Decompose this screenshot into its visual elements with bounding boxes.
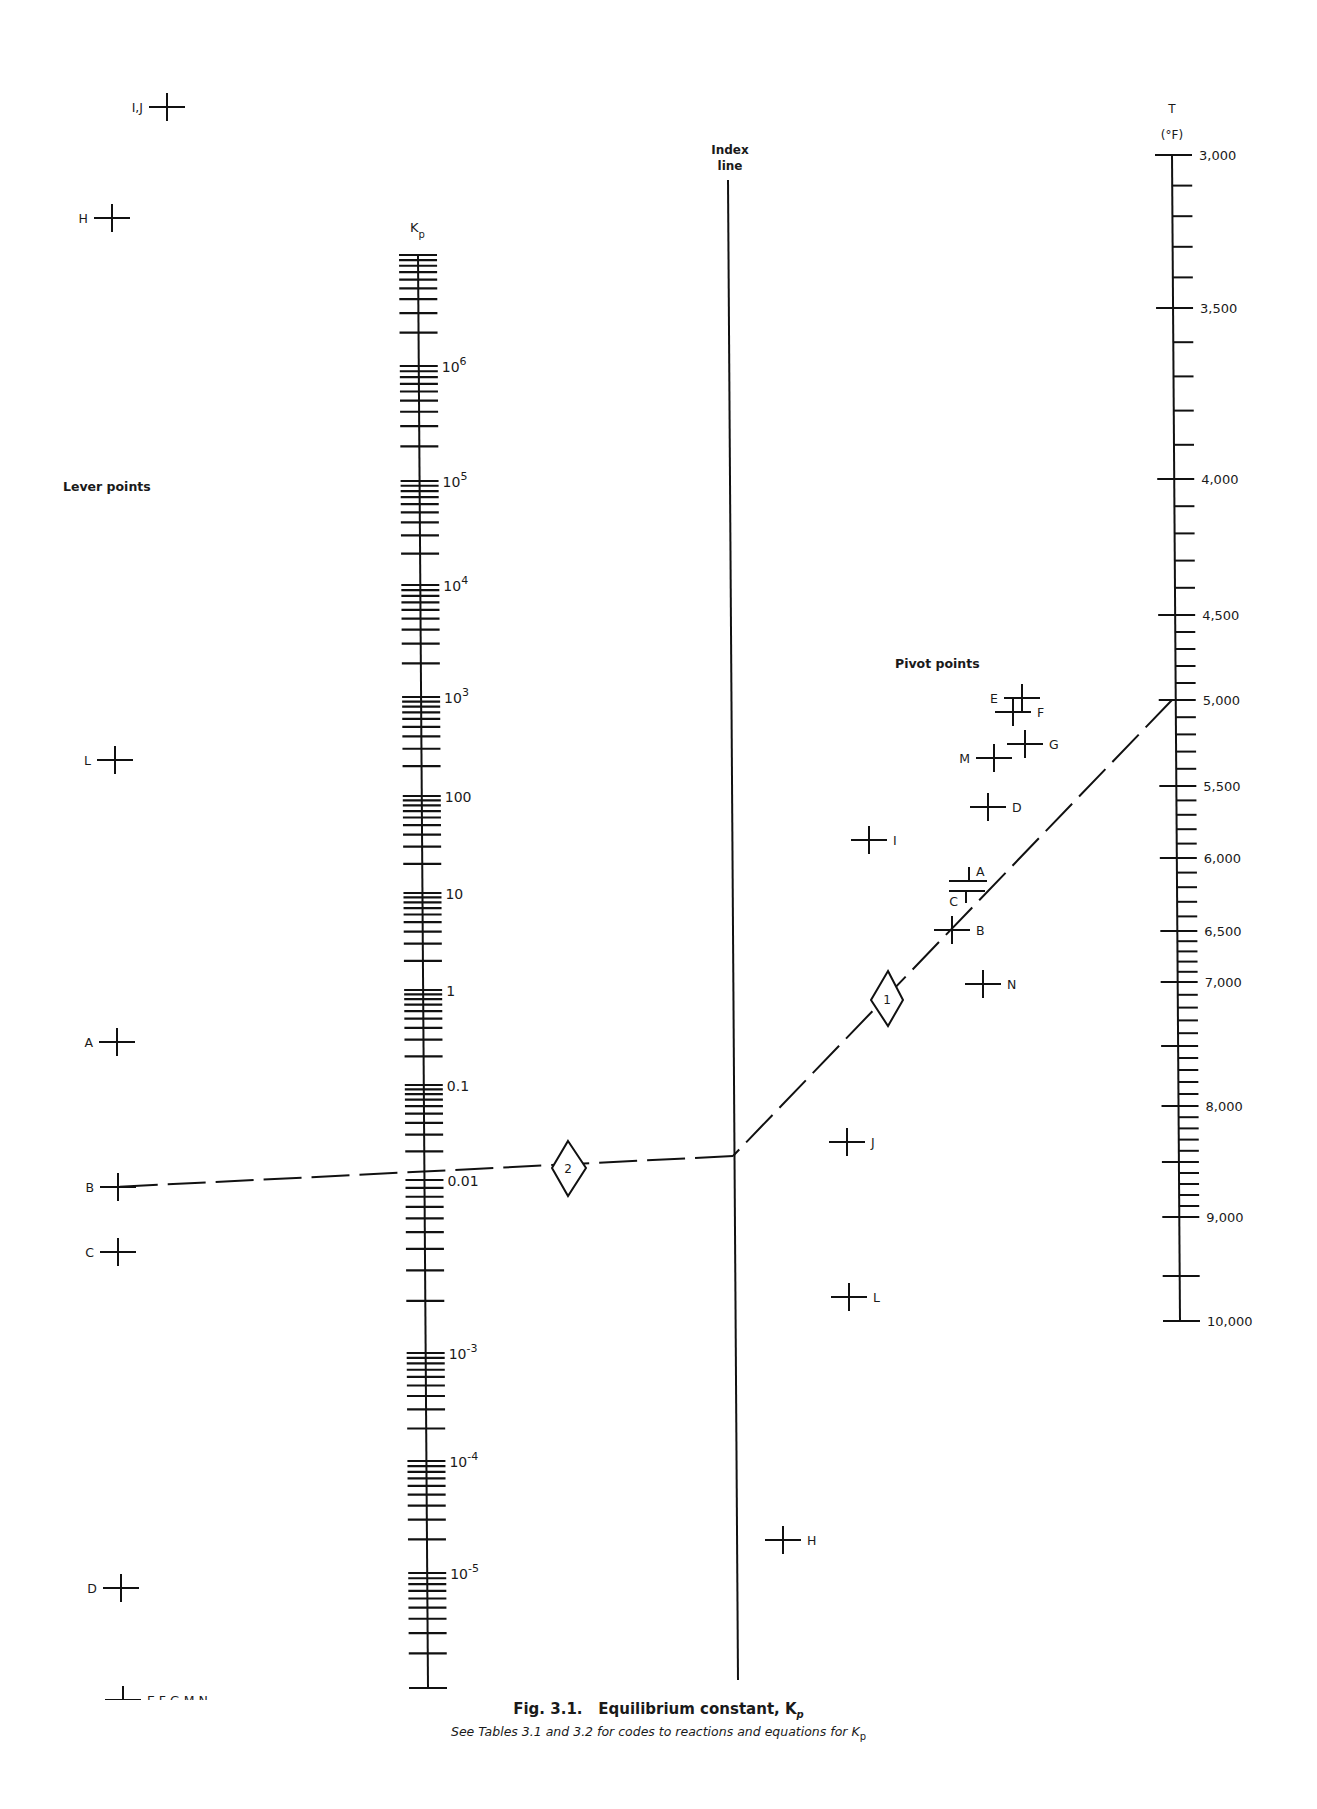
lever-point: E,F,G,M,N [105, 1686, 208, 1700]
index-line [728, 180, 738, 1680]
lever-point-label: E,F,G,M,N [147, 1693, 208, 1700]
svg-text:2: 2 [564, 1162, 572, 1176]
kp-tick-label: 10-4 [449, 1450, 478, 1470]
pivot-point-label: C [949, 894, 958, 909]
lever-points-heading: Lever points [63, 479, 151, 494]
lever-point: C [85, 1238, 136, 1266]
pivot-point-label: A [976, 864, 985, 879]
pivot-points: EFGMDIACBNJLH [765, 684, 1059, 1554]
figure-subtitle-subscript: p [860, 1731, 866, 1742]
temperature-tick-label: 4,000 [1201, 472, 1238, 487]
pivot-point: H [765, 1526, 816, 1554]
temperature-axis: 3,0003,5004,0004,5005,0005,5006,0006,500… [1155, 102, 1253, 1329]
pivot-point-label: B [976, 923, 985, 938]
pivot-point: N [965, 970, 1016, 998]
lever-point: A [84, 1028, 135, 1056]
kp-tick-label: 10-3 [449, 1342, 478, 1362]
nomogram: 1061051041031001010.10.0110-310-410-5 Kp… [0, 0, 1317, 1700]
figure-title: Fig. 3.1. Equilibrium constant, Kp [0, 1700, 1317, 1720]
temperature-tick-label: 3,500 [1200, 301, 1237, 316]
lever-point: L [84, 746, 133, 774]
example-path: 1 2 [115, 700, 1172, 1196]
index-line-label: Index [711, 143, 749, 157]
lever-point-label: D [87, 1581, 97, 1596]
figure-caption: Fig. 3.1. Equilibrium constant, Kp See T… [0, 1700, 1317, 1742]
lever-point: H [79, 204, 130, 232]
lever-point: D [87, 1574, 139, 1602]
lever-point-label: B [85, 1180, 94, 1195]
pivot-points-heading: Pivot points [895, 656, 980, 671]
step-1-marker: 1 [871, 971, 903, 1026]
pivot-point-label: L [873, 1290, 880, 1305]
kp-tick-label: 103 [444, 686, 469, 706]
figure-subtitle-text: See Tables 3.1 and 3.2 for codes to reac… [451, 1724, 860, 1739]
temperature-unit-label: (°F) [1161, 128, 1183, 142]
pivot-point: I [851, 826, 897, 854]
kp-tick-label: 105 [443, 470, 468, 490]
temperature-tick-label: 9,000 [1206, 1210, 1243, 1225]
lever-point: I,J [132, 93, 185, 121]
pivot-point: J [829, 1128, 875, 1156]
figure-title-text: Equilibrium constant, K [598, 1700, 796, 1718]
figure-number: Fig. 3.1. [513, 1700, 582, 1718]
kp-tick-label: 10-5 [450, 1562, 479, 1582]
pivot-point-label: M [959, 751, 970, 766]
pivot-point-label: E [990, 691, 998, 706]
temperature-tick-label: 10,000 [1207, 1314, 1253, 1329]
example-line-1 [733, 700, 1172, 1156]
kp-tick-label: 1 [446, 983, 455, 999]
pivot-point-label: G [1049, 737, 1059, 752]
svg-text:1: 1 [883, 993, 891, 1007]
pivot-point-label: J [870, 1135, 875, 1150]
kp-tick-label: 0.01 [447, 1173, 478, 1189]
index-line-group: Index line [711, 143, 749, 1680]
kp-tick-label: 0.1 [447, 1078, 469, 1094]
temperature-tick-label: 6,500 [1204, 924, 1241, 939]
pivot-point: G [1007, 730, 1059, 758]
lever-points: I,JHLABCDE,F,G,M,N [79, 93, 208, 1700]
step-2-marker: 2 [552, 1141, 586, 1196]
lever-point-label: C [85, 1245, 94, 1260]
temperature-axis-line [1172, 155, 1180, 1321]
pivot-point: L [831, 1283, 880, 1311]
lever-point-label: A [84, 1035, 93, 1050]
pivot-point: D [970, 793, 1022, 821]
temperature-axis-label: T [1167, 102, 1176, 116]
kp-tick-label: 100 [445, 789, 472, 805]
pivot-point-label: N [1007, 977, 1016, 992]
pivot-point: F [995, 698, 1044, 726]
pivot-point-label: H [807, 1533, 816, 1548]
kp-tick-label: 106 [442, 355, 467, 375]
kp-tick-label: 104 [443, 574, 468, 594]
temperature-tick-label: 7,000 [1205, 975, 1242, 990]
lever-point-label: I,J [132, 100, 143, 115]
temperature-tick-label: 5,000 [1203, 693, 1240, 708]
temperature-tick-label: 4,500 [1202, 608, 1239, 623]
kp-axis-label: Kp [410, 220, 425, 240]
figure-title-subscript: p [797, 1709, 804, 1720]
kp-axis-line [418, 255, 428, 1688]
kp-axis: 1061051041031001010.10.0110-310-410-5 Kp [399, 220, 479, 1688]
pivot-point-label: F [1037, 705, 1044, 720]
temperature-tick-label: 6,000 [1204, 851, 1241, 866]
pivot-point: A [949, 864, 987, 881]
pivot-point-label: I [893, 833, 897, 848]
lever-point-label: L [84, 753, 91, 768]
pivot-point: E [990, 684, 1040, 712]
kp-tick-label: 10 [445, 886, 463, 902]
index-line-label-2: line [718, 159, 743, 173]
temperature-tick-label: 3,000 [1199, 148, 1236, 163]
pivot-point: M [959, 744, 1012, 772]
figure-subtitle: See Tables 3.1 and 3.2 for codes to reac… [0, 1724, 1317, 1742]
lever-point-label: H [79, 211, 88, 226]
temperature-tick-label: 8,000 [1206, 1099, 1243, 1114]
pivot-point-label: D [1012, 800, 1022, 815]
temperature-tick-label: 5,500 [1203, 779, 1240, 794]
